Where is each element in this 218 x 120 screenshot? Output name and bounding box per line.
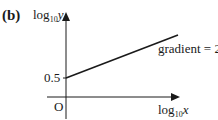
x-axis-arrow-icon — [171, 93, 180, 101]
graph-line — [66, 35, 178, 78]
graph-canvas — [0, 0, 218, 120]
y-axis-arrow-icon — [62, 12, 70, 21]
